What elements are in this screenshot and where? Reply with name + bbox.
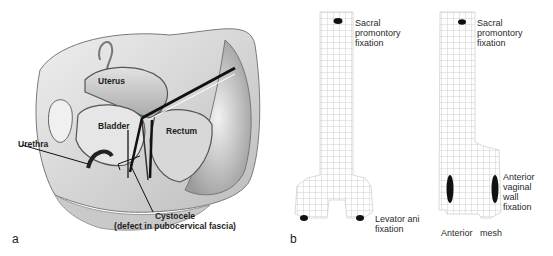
levator-ani-label: Levator ani fixation: [375, 214, 420, 234]
panel-a-anatomy-illustration: Uterus Bladder Rectum Urethra Cystocele …: [0, 0, 285, 256]
anterior-wall-line1: Anterior: [503, 172, 535, 182]
panel-letter-a: a: [12, 232, 19, 246]
levator-fixation-dot-left: [300, 215, 308, 221]
levator-line2: fixation: [375, 224, 420, 234]
anterior-wall-fixation-left: [447, 175, 454, 203]
panel-b-mesh-schematics: Sacral promontory fixation Levator ani f…: [285, 0, 553, 256]
cystocele-subtitle: (defect in pubocervical fascia): [110, 221, 240, 231]
levator-line1: Levator ani: [375, 214, 420, 224]
right-sacral-line3: fixation: [477, 38, 523, 48]
right-sacral-label: Sacral promontory fixation: [477, 18, 523, 48]
left-sacral-line2: promontory: [355, 28, 401, 38]
sacral-fixation-dot-left: [334, 18, 343, 24]
anterior-wall-line4: fixation: [503, 202, 535, 212]
left-sacral-line1: Sacral: [355, 18, 401, 28]
sacral-fixation-dot-anterior: [458, 19, 466, 25]
anterior-wall-label: Anterior vaginal wall fixation: [503, 172, 535, 212]
cystocele-label: Cystocele (defect in pubocervical fascia…: [110, 211, 240, 231]
cystocele-title: Cystocele: [110, 211, 240, 221]
left-sacral-label: Sacral promontory fixation: [355, 18, 401, 48]
anterior-mesh-caption: Anterior mesh: [441, 228, 502, 238]
anterior-wall-fixation-right: [492, 175, 499, 203]
levator-fixation-dot-right: [356, 215, 364, 221]
anterior-wall-line2: vaginal: [503, 182, 535, 192]
right-sacral-line1: Sacral: [477, 18, 523, 28]
uterus-label: Uterus: [98, 76, 125, 86]
right-sacral-line2: promontory: [477, 28, 523, 38]
rectum-label: Rectum: [166, 126, 197, 136]
anterior-wall-line3: wall: [503, 192, 535, 202]
panel-letter-b: b: [290, 232, 297, 246]
bladder-label: Bladder: [98, 121, 130, 131]
urethra-label: Urethra: [18, 139, 48, 149]
left-sacral-line3: fixation: [355, 38, 401, 48]
